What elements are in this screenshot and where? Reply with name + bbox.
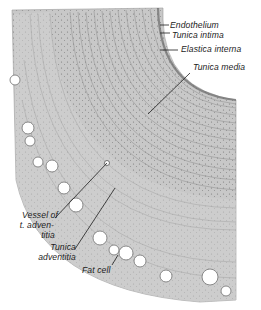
- label-fat-cell: Fat cell: [82, 266, 111, 275]
- label-tunica-intima: Tunica intima: [172, 31, 224, 40]
- label-vessel-line3: titia: [8, 231, 55, 240]
- label-endothelium: Endothelium: [170, 21, 219, 30]
- label-tunica-adventitia-line2: adventitia: [20, 253, 76, 262]
- label-vessel-line2: t. adven-: [8, 221, 54, 230]
- label-tunica-adventitia-line1: Tunica: [20, 243, 76, 252]
- label-vessel-line1: Vessel of: [8, 211, 58, 220]
- label-elastica-interna: Elastica interna: [181, 45, 241, 54]
- label-tunica-media: Tunica media: [193, 63, 245, 72]
